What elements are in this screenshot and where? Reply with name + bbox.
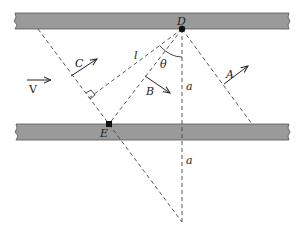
light-clock-diagram: D E V C B A l θ a a [0, 0, 303, 229]
point-D-label: D [176, 15, 186, 28]
length-l-label: l [134, 49, 138, 62]
vector-V-label: V [28, 83, 38, 96]
path-l-line [89, 29, 182, 98]
distance-a-upper-label: a [186, 80, 193, 93]
angle-arc [160, 46, 182, 57]
vector-A-label: A [225, 68, 234, 81]
right-diagonal-line [182, 29, 252, 124]
vector-B-label: B [145, 85, 154, 98]
point-E-label: E [99, 127, 108, 140]
bottom-plate [15, 124, 290, 140]
top-plate [14, 13, 290, 29]
right-angle-marker [86, 90, 95, 99]
angle-theta-label: θ [160, 58, 167, 71]
distance-a-lower-label: a [186, 154, 193, 167]
vector-C-label: C [75, 57, 84, 70]
